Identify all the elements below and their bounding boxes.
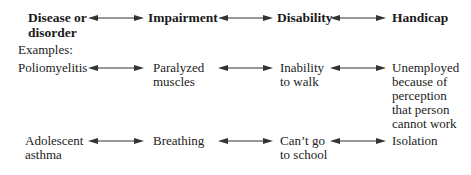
double-arrow-icon [330, 14, 386, 22]
double-arrow-icon [330, 64, 386, 72]
row1-handicap-line1: Unemployed [392, 61, 459, 75]
row1-handicap-line5: cannot work [392, 117, 457, 131]
row1-handicap-line2: because of [392, 75, 447, 89]
row1-disability-line2: to walk [280, 75, 319, 89]
row2-impairment: Breathing [153, 134, 204, 148]
row1-disease: Poliomyelitis [18, 61, 87, 75]
header-disease-line1: Disease or [28, 11, 87, 25]
row2-disability-line2: to school [280, 148, 327, 162]
row2-disease-line1: Adolescent [25, 134, 83, 148]
double-arrow-icon [218, 14, 273, 22]
header-disease-line2: disorder [28, 26, 77, 40]
row2-disability-line1: Can’t go [280, 134, 325, 148]
double-arrow-icon [88, 14, 144, 22]
double-arrow-icon [218, 64, 273, 72]
row1-disability-line1: Inability [280, 61, 324, 75]
row2-handicap: Isolation [392, 134, 438, 148]
double-arrow-icon [88, 137, 144, 145]
examples-label: Examples: [18, 43, 73, 57]
header-impairment: Impairment [148, 11, 218, 25]
double-arrow-icon [218, 137, 273, 145]
row2-disease-line2: asthma [25, 148, 62, 162]
row1-handicap-line3: perception [392, 89, 447, 103]
header-handicap: Handicap [392, 11, 448, 25]
row1-impairment-line2: muscles [153, 75, 195, 89]
double-arrow-icon [88, 64, 144, 72]
double-arrow-icon [330, 137, 386, 145]
header-disability: Disability [277, 11, 333, 25]
row1-impairment-line1: Paralyzed [153, 61, 204, 75]
row1-handicap-line4: that person [392, 103, 449, 117]
